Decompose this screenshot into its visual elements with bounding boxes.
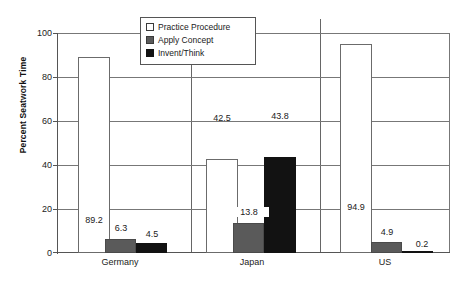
bar-germany-apply-concept[interactable]: [105, 239, 136, 253]
value-label-us-practice-procedure: 94.9: [336, 202, 376, 212]
x-category-label-japan: Japan: [222, 257, 282, 267]
legend-label-invent-think: Invent/Think: [158, 48, 204, 58]
legend-label-apply-concept: Apply Concept: [158, 35, 213, 45]
y-tick-60: [53, 121, 58, 122]
plot-area: 89.2 6.3 4.5 42.5 13.8 43.8 94.9 4.9 0.2: [58, 33, 450, 253]
y-tick-0: [53, 252, 58, 253]
y-tick-label-0: 0: [26, 248, 52, 258]
legend-item-practice-procedure[interactable]: Practice Procedure: [146, 21, 250, 33]
bar-us-practice-procedure[interactable]: [340, 44, 372, 253]
y-tick-40: [53, 165, 58, 166]
y-tick-label-100: 100: [26, 28, 52, 38]
x-category-label-us: US: [355, 257, 415, 267]
y-tick-80: [53, 77, 58, 78]
bar-japan-apply-concept[interactable]: [233, 223, 264, 253]
value-label-us-apply-concept: 4.9: [367, 227, 407, 237]
value-label-germany-invent-think: 4.5: [132, 229, 172, 239]
legend-item-apply-concept[interactable]: Apply Concept: [146, 34, 250, 46]
bar-chart-figure: Percent Seatwork Time 100 80 60 40 20 0 …: [0, 0, 465, 288]
y-tick-label-80: 80: [26, 72, 52, 82]
y-tick-label-40: 40: [26, 160, 52, 170]
y-tick-100: [53, 33, 58, 34]
x-category-label-germany: Germany: [90, 257, 150, 267]
chart-legend: Practice Procedure Apply Concept Invent/…: [140, 17, 256, 65]
y-tick-20: [53, 209, 58, 210]
gridline-60: [58, 121, 450, 122]
y-tick-label-20: 20: [26, 204, 52, 214]
y-tick-label-60: 60: [26, 116, 52, 126]
value-label-japan-apply-concept: 13.8: [229, 207, 269, 217]
plot-right-spine: [449, 33, 450, 253]
bar-japan-invent-think[interactable]: [264, 157, 296, 253]
bar-us-apply-concept[interactable]: [371, 242, 402, 253]
bar-germany-invent-think[interactable]: [136, 243, 167, 253]
value-label-japan-invent-think: 43.8: [260, 111, 300, 121]
legend-label-practice-procedure: Practice Procedure: [158, 22, 230, 32]
gray-square-icon: [146, 36, 154, 44]
bar-us-invent-think[interactable]: [402, 251, 433, 253]
white-square-icon: [146, 23, 154, 31]
value-label-us-invent-think: 0.2: [402, 239, 442, 249]
gridline-40: [58, 165, 450, 166]
value-label-japan-practice-procedure: 42.5: [202, 113, 242, 123]
gridline-80: [58, 77, 450, 78]
legend-item-invent-think[interactable]: Invent/Think: [146, 47, 250, 59]
y-axis-spine: [57, 33, 58, 254]
black-square-icon: [146, 49, 154, 57]
